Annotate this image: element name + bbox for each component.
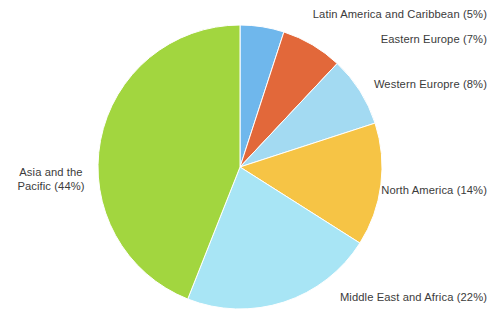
pie-label-western-europe: Western Europre (8%) bbox=[374, 78, 487, 92]
pie-slice-group bbox=[98, 25, 382, 309]
pie-chart-figure: Latin America and Caribbean (5%) Eastern… bbox=[0, 0, 499, 313]
pie-label-eastern-europe: Eastern Europe (7%) bbox=[381, 33, 487, 47]
pie-label-middle-east-and-africa: Middle East and Africa (22%) bbox=[340, 291, 487, 305]
pie-label-north-america: North America (14%) bbox=[381, 184, 487, 198]
pie-label-latin-america-and-caribbean: Latin America and Caribbean (5%) bbox=[313, 8, 487, 22]
pie-label-asia-and-the-pacific-line2: Pacific (44%) bbox=[17, 180, 84, 192]
pie-label-asia-and-the-pacific: Asia and thePacific (44%) bbox=[8, 166, 94, 193]
pie-chart-canvas bbox=[0, 0, 499, 313]
pie-label-asia-and-the-pacific-line1: Asia and the bbox=[19, 166, 82, 178]
